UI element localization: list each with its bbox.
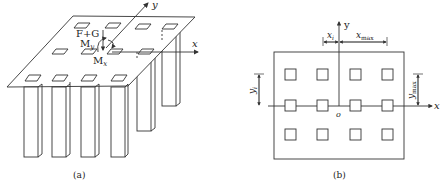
panel-a xyxy=(7,3,198,157)
xi-label: xi xyxy=(327,30,334,41)
pile-front-3 xyxy=(81,84,99,157)
xmax-label: xmax xyxy=(356,30,374,41)
caption-b: (b) xyxy=(333,170,346,180)
origin-label: o xyxy=(336,110,341,119)
pile-foundation-diagram: F+G My Mx y x (a) xyxy=(0,0,443,187)
yi-label: yi xyxy=(247,87,258,95)
pile-front-4 xyxy=(111,84,128,157)
pile-front-2 xyxy=(52,84,70,157)
axis-x-label-a: x xyxy=(192,38,198,49)
axis-x-label-b: x xyxy=(434,100,440,111)
axis-y-label-a: y xyxy=(151,0,158,10)
caption-a: (a) xyxy=(73,170,85,180)
axis-y-label-b: y xyxy=(343,19,350,30)
ymax-label: ymax xyxy=(406,81,417,100)
pile-front-1 xyxy=(24,84,42,157)
panel-b xyxy=(254,22,432,159)
